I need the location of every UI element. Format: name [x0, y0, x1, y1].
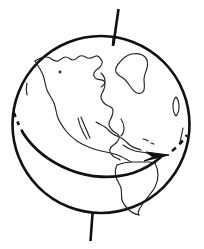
equator-arrow-shaft	[23, 133, 161, 177]
north-america-west-coast	[35, 61, 131, 162]
florida-peninsula	[121, 119, 124, 136]
right-limb-coast-fragment	[180, 128, 183, 142]
globe-figure: Earth globe with rotation axis and equat…	[0, 0, 204, 249]
greenland-outline	[116, 54, 148, 94]
baja-california-outline	[78, 117, 90, 139]
rotation-axis-front-line	[113, 36, 114, 46]
north-america-outline	[35, 56, 120, 160]
equator-arrow-group	[14, 113, 187, 177]
rotation-axis-front	[113, 36, 114, 46]
left-limb-coast-fragment	[26, 83, 27, 95]
equator-dashed-left	[14, 113, 24, 134]
globe-illustration	[0, 0, 204, 249]
right-limb-island	[173, 97, 179, 116]
caribbean-islands	[143, 139, 154, 144]
rotation-axis-bottom-stub	[91, 214, 93, 241]
equator-dashed-right	[172, 135, 187, 151]
island-dot	[59, 71, 61, 73]
